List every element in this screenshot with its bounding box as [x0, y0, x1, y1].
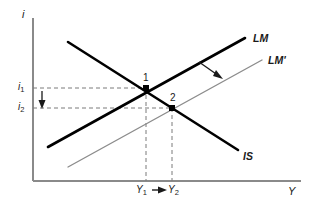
curve-label-is: IS	[243, 151, 253, 162]
is-lm-diagram: i Y i1 i2 Y1 Y2 LM LM' IS 1 2	[0, 0, 313, 209]
curve-label-lm-prime: LM'	[268, 55, 286, 66]
tick-label-Y1: Y1	[136, 185, 147, 195]
tick-label-i1: i1	[18, 82, 24, 92]
curve-is	[68, 42, 238, 150]
point-label-1: 1	[143, 73, 149, 83]
marker-equilibrium-1	[143, 85, 149, 91]
curve-lm-prime	[68, 60, 262, 167]
tick-Y2-sub: 2	[175, 188, 179, 197]
y-axis-label: i	[22, 9, 24, 20]
x-axis-label: Y	[288, 186, 295, 197]
tick-Y2-main: Y	[168, 184, 175, 195]
marker-equilibrium-2	[169, 105, 175, 111]
output-increase-arrow	[152, 187, 167, 194]
tick-label-Y2: Y2	[168, 185, 179, 195]
tick-Y1-main: Y	[136, 184, 143, 195]
point-label-2: 2	[170, 93, 176, 103]
tick-i2-sub: 2	[20, 105, 24, 114]
tick-i1-sub: 1	[20, 85, 24, 94]
lm-shift-arrow	[199, 62, 223, 79]
interest-rate-decrease-arrow	[39, 91, 46, 109]
curve-label-lm: LM	[253, 33, 268, 44]
tick-Y1-sub: 1	[143, 188, 147, 197]
tick-label-i2: i2	[18, 102, 24, 112]
